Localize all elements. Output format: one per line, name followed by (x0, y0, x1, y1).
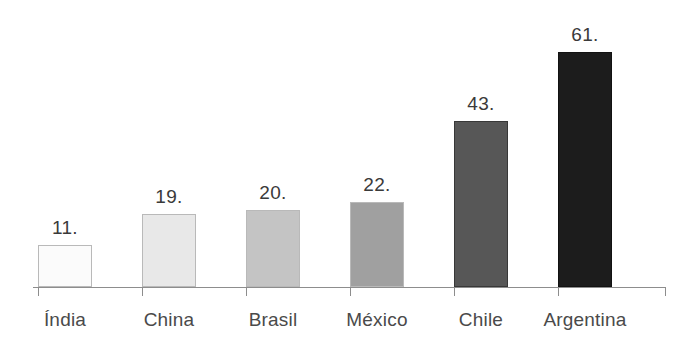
x-axis-tick (246, 287, 247, 296)
value-label-china: 19. (129, 187, 209, 206)
x-axis-tick (142, 287, 143, 296)
x-axis-tick (38, 287, 39, 296)
x-axis-tick (558, 287, 559, 296)
value-label-mexico: 22. (337, 175, 417, 194)
value-label-brasil: 20. (233, 183, 313, 202)
bar-chile (454, 121, 508, 287)
category-label-china: China (109, 309, 229, 330)
value-label-india: 11. (25, 218, 105, 237)
value-label-chile: 43. (441, 94, 521, 113)
category-label-mexico: México (317, 309, 437, 330)
bar-argentina (558, 52, 612, 287)
x-axis-tick (350, 287, 351, 296)
bar-china (142, 214, 196, 287)
x-axis-tick-end (665, 287, 666, 296)
category-label-argentina: Argentina (525, 309, 645, 330)
bar-chart: 11. 19. 20. 22. 43. 61. Índia China Bras… (0, 0, 692, 348)
bar-india (38, 245, 92, 287)
x-axis-tick (454, 287, 455, 296)
category-label-brasil: Brasil (213, 309, 333, 330)
bar-mexico (350, 202, 404, 287)
category-label-chile: Chile (421, 309, 541, 330)
bar-brasil (246, 210, 300, 287)
plot-area: 11. 19. 20. 22. 43. 61. Índia China Bras… (0, 0, 692, 348)
category-label-india: Índia (5, 309, 125, 330)
value-label-argentina: 61. (545, 25, 625, 44)
